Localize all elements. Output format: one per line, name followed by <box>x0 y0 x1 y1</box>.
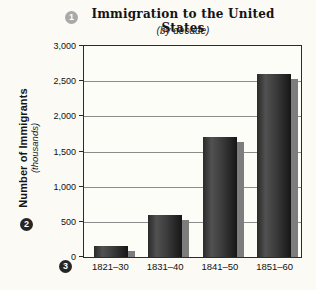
y-tick-label: 1,000 <box>53 182 76 192</box>
y-tick-label: 500 <box>61 217 76 227</box>
y-tick-label: 0 <box>71 252 76 262</box>
x-axis-labels: 1821–301831–401841–501851–60 <box>83 261 302 272</box>
y-axis-tick <box>79 221 84 222</box>
y-tick-label: 2,500 <box>53 76 76 86</box>
bar <box>257 74 291 257</box>
chart-figure: 1 Immigration to the United States (by d… <box>0 0 316 290</box>
bar <box>203 137 237 257</box>
bar <box>94 246 128 257</box>
y-tick-label: 3,000 <box>53 41 76 51</box>
y-tick-label: 2,000 <box>53 111 76 121</box>
callout-3-badge: 3 <box>59 260 72 273</box>
y-axis-tick <box>79 45 84 46</box>
y-axis-title-text: Number of Immigrants <box>17 88 29 207</box>
y-tick-label: 1,500 <box>53 147 76 157</box>
bar <box>148 215 182 257</box>
y-axis-tick <box>79 256 84 257</box>
y-axis-tick <box>79 80 84 81</box>
x-axis-label: 1841–50 <box>193 261 248 272</box>
x-axis-label: 1831–40 <box>138 261 193 272</box>
chart-subtitle: (by decade) <box>72 25 294 36</box>
x-axis-label: 1821–30 <box>83 261 138 272</box>
y-axis-tick <box>79 115 84 116</box>
y-axis-tick <box>79 186 84 187</box>
y-axis-tick-labels: 3,0002,5002,0001,5001,0005000 <box>30 45 80 258</box>
plot-area <box>83 45 302 258</box>
x-axis-label: 1851–60 <box>247 261 302 272</box>
y-axis-tick <box>79 151 84 152</box>
